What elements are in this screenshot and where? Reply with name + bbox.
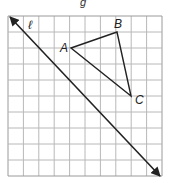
- vertex-b-label: B: [114, 17, 122, 31]
- vertex-a-label: A: [59, 41, 68, 55]
- vertex-c-label: C: [135, 93, 144, 107]
- figure-canvas: g ℓ A B C: [0, 0, 171, 183]
- line-l-label: ℓ: [28, 18, 33, 32]
- caption-fragment: g: [80, 0, 87, 8]
